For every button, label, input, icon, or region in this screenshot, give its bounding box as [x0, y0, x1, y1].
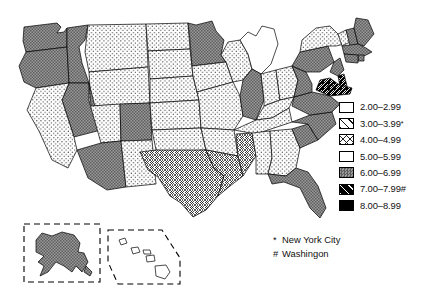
state-HI-oahu[interactable] [131, 247, 140, 254]
legend-swatch-solid-white [339, 102, 354, 113]
legend-label-6: 8.00–8.99 [360, 201, 401, 210]
map-footnotes: *New York City #Washingon [273, 233, 340, 261]
state-DE[interactable] [338, 74, 347, 86]
footnote-text-0: New York City [282, 234, 340, 245]
state-CT[interactable] [344, 54, 358, 63]
legend-swatch-gray-checker [339, 167, 354, 178]
legend-label-2: 4.00–4.99 [360, 135, 401, 144]
legend-label-5: 7.00–7.99# [360, 184, 406, 193]
legend-swatch-solid-black [339, 200, 354, 211]
state-CO[interactable] [120, 103, 152, 141]
state-MD[interactable] [316, 78, 352, 96]
state-ND[interactable] [146, 23, 190, 51]
state-HI-molokai[interactable] [143, 250, 151, 254]
legend-swatch-diagonal-line [339, 118, 354, 129]
state-HI-hawaii[interactable] [155, 265, 170, 279]
footnote-mark-1: # [273, 247, 282, 261]
hawaii-inset-frame [108, 230, 180, 284]
legend-item-0[interactable]: 2.00–2.99 [339, 99, 423, 115]
state-AK-aleutians[interactable] [84, 266, 92, 276]
legend-item-5[interactable]: 7.00–7.99# [339, 181, 423, 197]
state-SD[interactable] [148, 49, 193, 79]
legend-footnote-mark-1: * [401, 120, 404, 127]
states-layer [19, 18, 374, 218]
legend-item-1[interactable]: 3.00–3.99 * [339, 115, 423, 131]
state-PA[interactable] [292, 46, 334, 72]
legend-item-6[interactable]: 8.00–8.99 [339, 197, 423, 213]
state-HI-kauai[interactable] [119, 238, 127, 245]
legend-label-3: 5.00–5.99 [360, 152, 401, 161]
alaska-inset [24, 224, 100, 282]
state-FL[interactable] [268, 168, 326, 218]
legend-label-1: 3.00–3.99 [360, 119, 401, 128]
choropleth-map-figure: 2.00–2.99 3.00–3.99 * 4.00–4.99 5.00–5.9… [0, 0, 423, 304]
legend-item-3[interactable]: 5.00–5.99 [339, 148, 423, 164]
state-WY[interactable] [89, 67, 150, 106]
state-AK[interactable] [36, 232, 88, 276]
hawaii-inset [108, 230, 180, 284]
state-OK[interactable] [152, 128, 206, 152]
state-HI-maui[interactable] [146, 255, 155, 262]
footnote-0: *New York City [273, 233, 340, 247]
legend-item-4[interactable]: 6.00–6.99 [339, 165, 423, 181]
state-AZ[interactable] [77, 141, 126, 190]
footnote-text-1: Washingon [282, 248, 329, 259]
state-NE[interactable] [150, 76, 199, 103]
legend-swatch-cross-hatch [339, 134, 354, 145]
state-RI[interactable] [358, 55, 364, 61]
map-legend: 2.00–2.99 3.00–3.99 * 4.00–4.99 5.00–5.9… [339, 99, 423, 214]
footnote-mark-0: * [273, 233, 282, 247]
legend-swatch-dotted [339, 151, 354, 162]
footnote-1: #Washingon [273, 247, 340, 261]
legend-item-2[interactable]: 4.00–4.99 [339, 132, 423, 148]
state-MT[interactable] [85, 24, 148, 72]
state-MN[interactable] [188, 21, 226, 66]
state-OR[interactable] [19, 47, 69, 88]
legend-label-4: 6.00–6.99 [360, 168, 401, 177]
state-KS[interactable] [150, 100, 201, 130]
legend-swatch-black-diagonal [339, 184, 354, 195]
legend-label-0: 2.00–2.99 [360, 102, 401, 111]
